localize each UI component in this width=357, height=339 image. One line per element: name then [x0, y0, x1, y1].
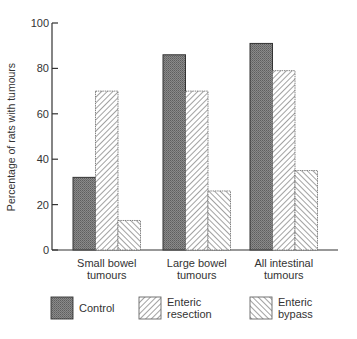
legend-label: bypass [278, 308, 313, 320]
legend-item-enteric-resection: Entericresection [139, 296, 212, 320]
y-tick-label: 40 [37, 153, 49, 165]
legend-item-enteric-bypass: Entericbypass [250, 296, 313, 320]
bar-enteric-resection [273, 71, 296, 250]
y-tick-label: 0 [43, 244, 49, 256]
category-label: Small bowel [77, 257, 136, 269]
category-label: tumours [87, 269, 127, 281]
y-tick-label: 60 [37, 108, 49, 120]
bar-control [73, 177, 96, 250]
bar-enteric-bypass [208, 191, 231, 250]
bars [73, 43, 318, 250]
legend-swatch [250, 297, 272, 319]
category-label: tumours [177, 269, 217, 281]
legend-label: Enteric [278, 296, 313, 308]
legend-item-control: Control [51, 297, 114, 319]
bar-enteric-resection [96, 91, 119, 250]
bar-enteric-resection [186, 91, 209, 250]
legend-label: Control [79, 302, 114, 314]
bar-chart: Percentage of rats with tumours 02040608… [0, 0, 357, 339]
legend-swatch [51, 297, 73, 319]
bar-enteric-bypass [118, 220, 141, 250]
y-tick-label: 100 [31, 17, 49, 29]
y-axis-label: Percentage of rats with tumours [5, 63, 17, 211]
legend-label: resection [167, 308, 212, 320]
category-labels: Small boweltumoursLarge boweltumoursAll … [77, 257, 313, 281]
legend: ControlEntericresectionEntericbypass [51, 296, 313, 320]
category-label: All intestinal [254, 257, 313, 269]
y-tick-label: 20 [37, 199, 49, 211]
category-label: tumours [264, 269, 304, 281]
category-label: Large bowel [167, 257, 227, 269]
bar-control [250, 43, 273, 250]
bar-control [163, 55, 186, 250]
legend-swatch [139, 297, 161, 319]
legend-label: Enteric [167, 296, 202, 308]
y-tick-label: 80 [37, 62, 49, 74]
bar-enteric-bypass [295, 171, 318, 250]
